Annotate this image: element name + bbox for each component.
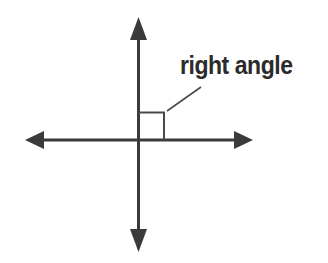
- left-arrowhead-icon: [25, 131, 44, 149]
- right-angle-diagram: right angle: [0, 0, 328, 263]
- top-arrowhead-icon: [130, 17, 147, 40]
- bottom-arrowhead-icon: [130, 229, 147, 252]
- right-angle-label: right angle: [180, 50, 293, 80]
- coordinate-axes-illustration: [0, 0, 328, 263]
- leader-line: [167, 87, 201, 111]
- right-arrowhead-icon: [234, 131, 253, 149]
- right-angle-square-marker: [138, 113, 164, 141]
